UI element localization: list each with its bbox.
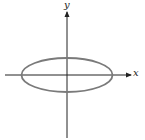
diagram-svg [0, 0, 145, 140]
diagram-canvas: x y [0, 0, 145, 140]
x-axis-label: x [133, 68, 139, 78]
y-axis-label: y [64, 0, 70, 10]
